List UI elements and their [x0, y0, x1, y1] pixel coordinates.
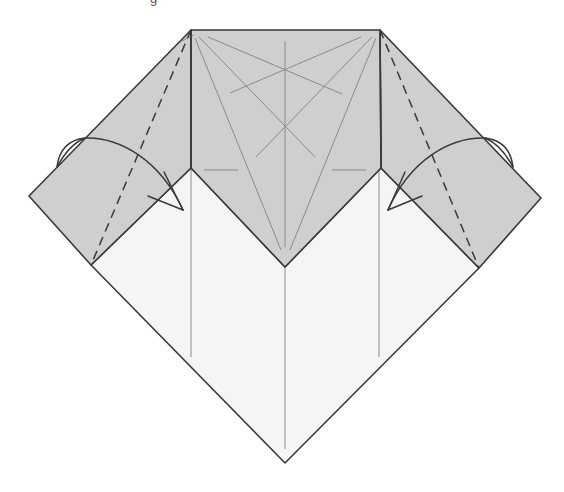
origami-diagram: [0, 0, 564, 492]
right-panel-edge: [380, 30, 381, 168]
